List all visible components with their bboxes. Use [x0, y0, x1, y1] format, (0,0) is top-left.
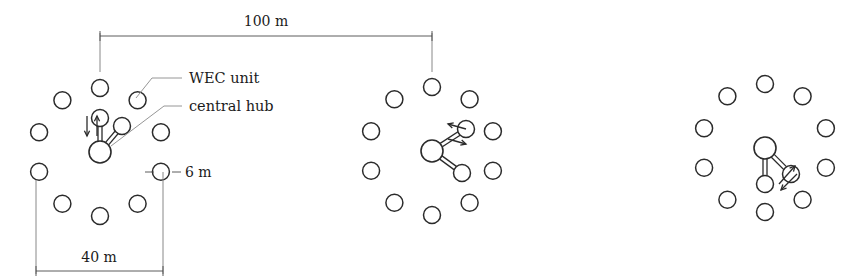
wec-unit [719, 88, 736, 105]
wec-unit [386, 91, 403, 108]
wec-unit [484, 123, 501, 140]
central-hub-label: central hub [189, 98, 274, 114]
wec-unit [817, 159, 834, 176]
wec-unit [757, 76, 774, 93]
cluster-1 [31, 80, 170, 225]
wec-unit [424, 79, 441, 96]
wec-unit [54, 92, 71, 109]
wec-unit [696, 120, 713, 137]
wec-unit [152, 124, 169, 141]
dimension-unit-diameter-label: 6 m [185, 164, 212, 180]
wec-unit [386, 194, 403, 211]
wec-unit [54, 195, 71, 212]
dimension-spacing: 100 m [100, 13, 432, 72]
tethered-wec-unit [114, 118, 131, 135]
cluster-2 [363, 79, 502, 224]
cluster-group [31, 76, 835, 225]
central-hub [421, 140, 443, 162]
wec-unit-label: WEC unit [189, 70, 260, 86]
wec-unit [794, 191, 811, 208]
dimension-spacing-label: 100 m [244, 13, 288, 29]
wec-unit [363, 123, 380, 140]
figure-canvas: 100 m 40 m 6 m WEC unit central hub [0, 0, 855, 279]
wec-unit [129, 195, 146, 212]
wec-unit [92, 208, 109, 225]
wec-unit [424, 207, 441, 224]
cluster-3 [696, 76, 835, 221]
wec-unit [461, 91, 478, 108]
wec-unit [794, 88, 811, 105]
wec-unit [484, 162, 501, 179]
callout-wec-unit: WEC unit [136, 70, 260, 98]
wec-unit [31, 163, 48, 180]
dimension-cluster-width-label: 40 m [81, 249, 117, 265]
wec-unit [92, 80, 109, 97]
wec-unit [31, 124, 48, 141]
wec-unit [461, 194, 478, 211]
wec-unit [363, 162, 380, 179]
tethered-wec-unit [757, 176, 774, 193]
wec-unit [152, 163, 169, 180]
wec-unit [817, 120, 834, 137]
wec-unit [129, 92, 146, 109]
central-hub [754, 137, 776, 159]
tethered-wec-unit [92, 110, 109, 127]
wec-unit [696, 159, 713, 176]
central-hub [89, 141, 111, 163]
tethered-wec-unit [454, 165, 471, 182]
wec-unit [719, 191, 736, 208]
wec-unit [757, 204, 774, 221]
